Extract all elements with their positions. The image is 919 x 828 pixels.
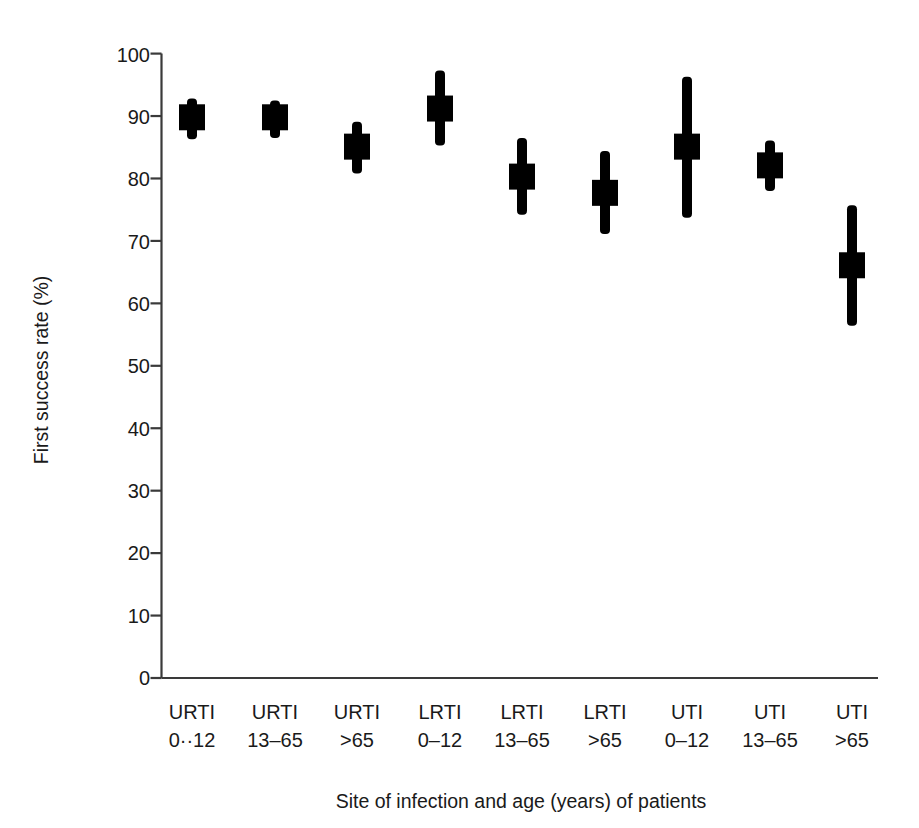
x-tick-site-2: URTI	[252, 701, 298, 723]
x-tick-site-9: UTI	[836, 701, 868, 723]
data-markers	[179, 70, 865, 325]
data-point	[509, 138, 535, 215]
data-point	[592, 151, 618, 234]
data-point	[344, 122, 370, 174]
x-tick-site-7: UTI	[671, 701, 703, 723]
data-point	[179, 99, 205, 140]
data-point	[262, 100, 288, 137]
data-point	[674, 77, 700, 218]
point-marker	[262, 104, 288, 130]
point-marker	[509, 164, 535, 190]
x-tick-site-5: LRTI	[501, 701, 544, 723]
y-axis-ticks	[151, 54, 162, 678]
x-tick-site-8: UTI	[754, 701, 786, 723]
point-marker	[839, 252, 865, 278]
x-tick-site-4: LRTI	[419, 701, 462, 723]
x-tick-site-1: URTI	[169, 701, 215, 723]
point-marker	[179, 104, 205, 130]
data-point	[757, 140, 783, 191]
point-marker	[592, 180, 618, 206]
x-tick-site-6: LRTI	[584, 701, 627, 723]
point-marker	[344, 134, 370, 160]
point-marker	[674, 134, 700, 160]
data-point	[427, 70, 453, 145]
chart-figure: First success rate (%) 100 90 80 70 60 5…	[0, 0, 919, 828]
point-marker	[757, 152, 783, 178]
data-point	[839, 205, 865, 326]
point-marker	[427, 96, 453, 122]
x-tick-label-9: UTI >65	[797, 698, 907, 754]
x-tick-site-3: URTI	[334, 701, 380, 723]
x-axis-title: Site of infection and age (years) of pat…	[161, 790, 881, 813]
x-tick-age-9: >65	[797, 726, 907, 754]
